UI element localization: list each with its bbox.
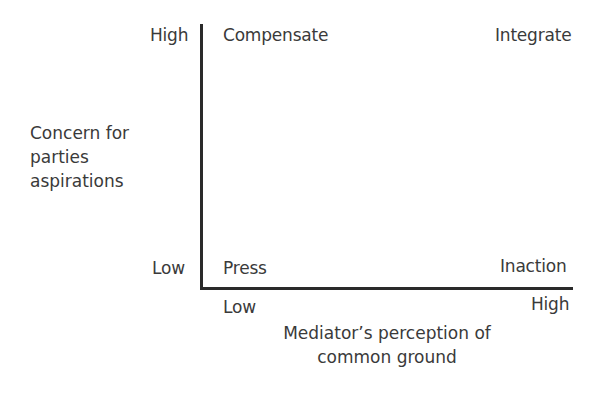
y-axis-title-line: Concern for xyxy=(30,121,129,145)
x-axis-line xyxy=(200,287,573,290)
y-axis-title-line: aspirations xyxy=(30,169,129,193)
y-axis-high-label: High xyxy=(150,25,188,45)
quadrant-top-left: Compensate xyxy=(223,25,328,45)
y-axis-title-line: parties xyxy=(30,145,129,169)
x-axis-title-line: Mediator’s perception of xyxy=(262,321,512,345)
x-axis-high-label: High xyxy=(531,294,569,314)
x-axis-low-label: Low xyxy=(223,297,256,317)
y-axis-low-label: Low xyxy=(152,258,185,278)
x-axis-title: Mediator’s perception of common ground xyxy=(262,321,512,369)
y-axis-title: Concern for parties aspirations xyxy=(30,121,129,193)
y-axis-line xyxy=(200,24,203,290)
quadrant-bottom-left: Press xyxy=(223,258,267,278)
x-axis-title-line: common ground xyxy=(262,345,512,369)
quadrant-top-right: Integrate xyxy=(495,25,571,45)
quadrant-bottom-right: Inaction xyxy=(500,256,567,276)
